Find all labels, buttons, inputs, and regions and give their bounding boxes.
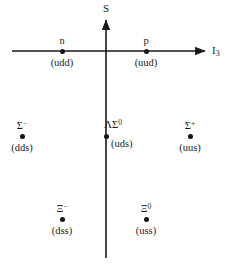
particle-charge-superscript: + [191,119,195,128]
particle-dot [144,49,149,54]
particle-quark-content: (uud) [135,58,158,69]
particle-symbol-lambda: Λ [104,119,112,130]
particle-symbol: Σ+ [185,120,195,132]
particle-quark-content: (udd) [51,58,74,69]
particle-symbol: Ξ− [57,203,68,215]
particle-quark-content: (uds) [111,139,133,150]
particle-quark-content: (uus) [179,143,201,154]
particle-dot [144,217,149,222]
particle-charge-superscript: 0 [118,118,122,127]
isospin-axis-label: I3 [212,45,220,58]
particle-symbol: p [143,35,148,47]
baryon-octet-diagram: S I3 n (udd) p (uud) Σ− (dds) Λ Σ0 (uds)… [0,0,229,266]
particle-charge-superscript: − [63,202,67,211]
particle-dot [60,217,65,222]
particle-symbol: Σ− [17,120,27,132]
particle-symbol: Ξ0 [141,203,152,215]
particle-symbol: n [59,35,64,47]
particle-quark-content: (dds) [11,143,33,154]
axes-layer [0,0,229,266]
particle-dot [188,134,193,139]
particle-dot [104,134,109,139]
particle-charge-superscript: 0 [148,202,152,211]
particle-quark-content: (dss) [52,226,72,237]
particle-dot [20,134,25,139]
particle-dot [60,49,65,54]
particle-quark-content: (uss) [136,226,156,237]
isospin-axis-subscript: 3 [216,49,220,58]
strangeness-axis-label: S [103,3,109,14]
particle-symbol: Σ0 [112,119,122,131]
particle-charge-superscript: − [23,119,27,128]
